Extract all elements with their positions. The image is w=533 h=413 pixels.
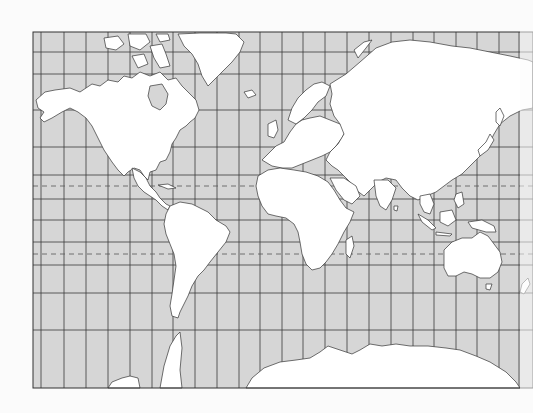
sri-lanka bbox=[394, 206, 398, 211]
world-map bbox=[0, 0, 533, 413]
paper-edge bbox=[520, 0, 533, 413]
map-canvas bbox=[0, 0, 533, 413]
